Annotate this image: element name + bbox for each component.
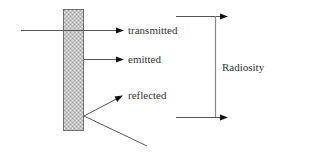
radiosity-label: Radiosity: [222, 61, 264, 73]
surface-wall: [64, 10, 84, 131]
incident-ray: [84, 116, 147, 146]
emitted-label: emitted: [128, 53, 161, 65]
reflected-arrow: [84, 96, 122, 116]
reflected-label: reflected: [128, 89, 166, 101]
transmitted-label: transmitted: [128, 24, 178, 36]
